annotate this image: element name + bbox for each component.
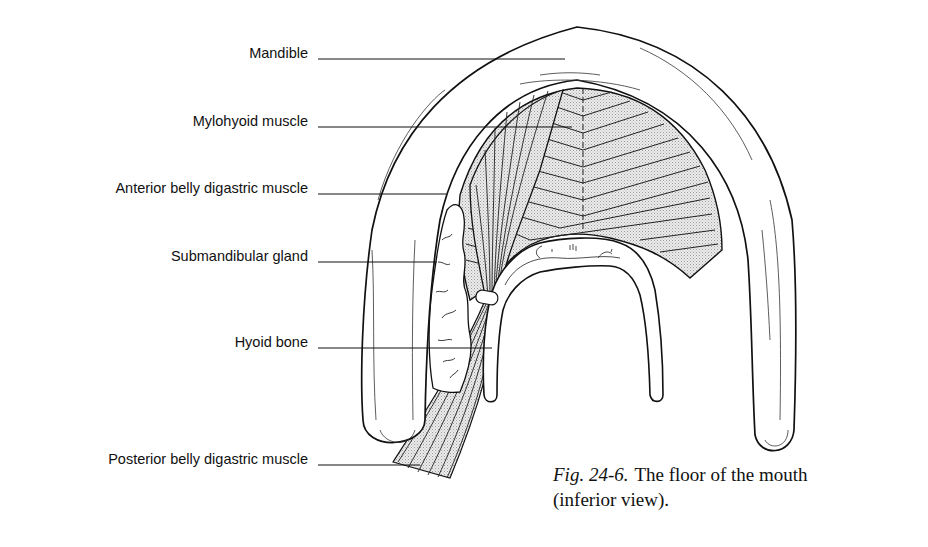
label-submandibular-gland: Submandibular gland: [171, 247, 308, 265]
label-anterior-belly-digastric-muscle: Anterior belly digastric muscle: [115, 179, 308, 197]
label-posterior-belly-digastric-muscle: Posterior belly digastric muscle: [108, 450, 308, 468]
figure-number: Fig. 24-6.: [553, 464, 628, 485]
caption-line-1: Fig. 24-6.The floor of the mouth: [553, 462, 808, 487]
caption-text-line-1: The floor of the mouth: [634, 464, 807, 485]
label-mandible: Mandible: [249, 44, 308, 62]
label-hyoid-bone: Hyoid bone: [235, 333, 308, 351]
label-mylohyoid-muscle: Mylohyoid muscle: [193, 112, 308, 130]
anatomy-figure: Mandible Mylohyoid muscle Anterior belly…: [0, 0, 928, 547]
figure-caption: Fig. 24-6.The floor of the mouth (inferi…: [553, 462, 808, 512]
caption-text-line-2: (inferior view).: [553, 487, 808, 512]
